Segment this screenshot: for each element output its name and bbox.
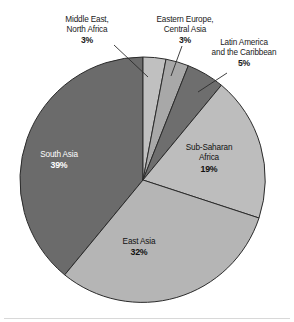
slice-label-percent: 39% xyxy=(18,160,100,170)
slice-label-latin-america-caribbean: Latin America and the Caribbean 5% xyxy=(196,38,292,69)
slice-label-percent: 19% xyxy=(168,164,250,174)
slice-label-south-asia: South Asia 39% xyxy=(18,150,100,171)
slice-label-east-asia: East Asia 32% xyxy=(98,237,180,258)
slice-label-line2: Africa xyxy=(168,153,250,163)
slice-label-line1: Middle East, xyxy=(44,15,130,25)
slice-label-line2: Central Asia xyxy=(142,25,228,35)
slice-label-line1: East Asia xyxy=(98,237,180,247)
slice-label-line1: Sub-Saharan xyxy=(168,143,250,153)
slice-label-line1: South Asia xyxy=(18,150,100,160)
slice-label-percent: 3% xyxy=(44,35,130,45)
slice-label-percent: 5% xyxy=(196,58,292,68)
slice-label-line2: North Africa xyxy=(44,25,130,35)
slice-label-line1: Latin America xyxy=(196,38,292,48)
bottom-divider xyxy=(4,318,290,319)
slice-label-percent: 32% xyxy=(98,247,180,257)
slice-label-sub-saharan-africa: Sub-Saharan Africa 19% xyxy=(168,143,250,174)
slice-label-line2: and the Caribbean xyxy=(196,48,292,58)
slice-label-line1: Eastern Europe, xyxy=(142,15,228,25)
slice-label-middle-east-north-africa: Middle East, North Africa 3% xyxy=(44,15,130,46)
pie-chart: Middle East, North Africa 3% Eastern Eur… xyxy=(0,0,294,322)
